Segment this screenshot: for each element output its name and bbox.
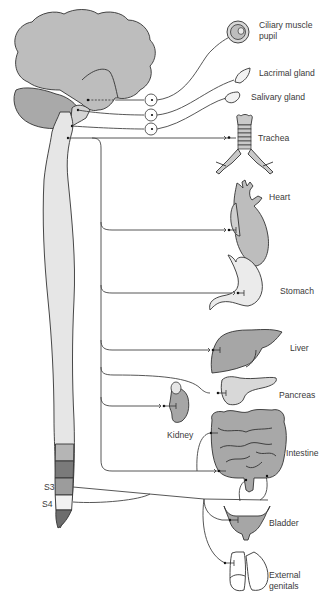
label-salivary-gland: Salivary gland bbox=[251, 92, 305, 102]
lacrimal-gland-organ bbox=[235, 68, 250, 83]
heart-organ bbox=[231, 180, 269, 266]
label-s4: S4 bbox=[42, 499, 53, 509]
eye-organ bbox=[227, 21, 249, 43]
intestine-organ bbox=[211, 410, 286, 493]
bladder-organ bbox=[224, 506, 270, 540]
label-stomach: Stomach bbox=[280, 286, 314, 296]
label-heart: Heart bbox=[269, 192, 291, 202]
kidney-organ bbox=[169, 382, 188, 422]
sacral-segment-s4 bbox=[55, 495, 72, 510]
label-intestine: Intestine bbox=[286, 448, 319, 458]
label-trachea: Trachea bbox=[258, 133, 289, 143]
sacral-segment-1 bbox=[55, 444, 74, 461]
label-kidney: Kidney bbox=[167, 430, 194, 440]
salivary-gland-organ bbox=[225, 92, 240, 103]
trachea-organ bbox=[216, 115, 273, 175]
label-pancreas: Pancreas bbox=[279, 390, 315, 400]
pancreas-organ bbox=[221, 377, 276, 405]
label-lacrimal-gland: Lacrimal gland bbox=[259, 68, 315, 78]
label-external: External bbox=[269, 570, 301, 580]
external-genitals-organ bbox=[230, 552, 268, 591]
label-bladder: Bladder bbox=[269, 518, 299, 528]
sacral-segment-2 bbox=[55, 461, 74, 478]
sacral-segment-s3 bbox=[55, 478, 73, 495]
spinal-cord bbox=[43, 112, 74, 528]
label-ciliary-muscle: Ciliary muscle bbox=[259, 20, 313, 30]
label-genitals: genitals bbox=[269, 581, 299, 591]
label-s3: S3 bbox=[44, 482, 55, 492]
label-liver: Liver bbox=[290, 343, 309, 353]
parasympathetic-diagram: Ciliary muscle pupil Lacrimal gland Sali… bbox=[0, 0, 328, 597]
label-pupil: pupil bbox=[259, 31, 277, 41]
sacral-tip bbox=[56, 510, 72, 528]
